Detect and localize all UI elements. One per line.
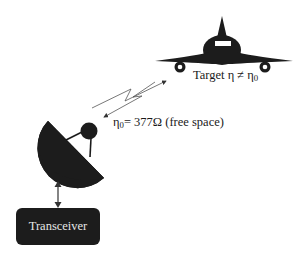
target-label-subscript: 0 xyxy=(254,73,258,83)
impedance-value: = 377Ω (free space) xyxy=(124,115,224,129)
target-label: Target η ≠ η0 xyxy=(193,69,258,83)
free-space-impedance-label: η0= 377Ω (free space) xyxy=(113,116,224,130)
radar-dish-icon xyxy=(37,121,104,188)
transceiver-block: Transceiver xyxy=(16,208,100,245)
target-label-text: Target η ≠ η xyxy=(193,68,254,82)
transceiver-label: Transceiver xyxy=(29,219,88,234)
bidirectional-arrow-icon xyxy=(55,181,62,208)
signal-wave-icon xyxy=(92,81,166,117)
aircraft-icon xyxy=(155,16,293,73)
